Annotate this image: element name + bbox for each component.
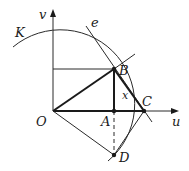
v-axis-arrow-icon (50, 9, 56, 17)
point-a (112, 109, 116, 113)
point-b (112, 67, 116, 71)
segment-ob (53, 69, 114, 111)
curve-k (13, 30, 135, 161)
geometry-diagram: v u K e B O A C D x (0, 0, 189, 171)
label-a: A (100, 114, 110, 129)
label-v: v (39, 7, 47, 22)
point-d (112, 153, 116, 157)
label-e: e (91, 15, 99, 30)
label-b: B (118, 63, 129, 78)
label-c: C (142, 94, 152, 109)
label-o: O (36, 114, 47, 129)
segment-cd (114, 111, 144, 155)
label-k: K (14, 25, 26, 40)
label-d: D (118, 150, 130, 165)
point-c (142, 109, 146, 113)
label-x: x (122, 89, 129, 102)
label-u: u (172, 114, 180, 129)
